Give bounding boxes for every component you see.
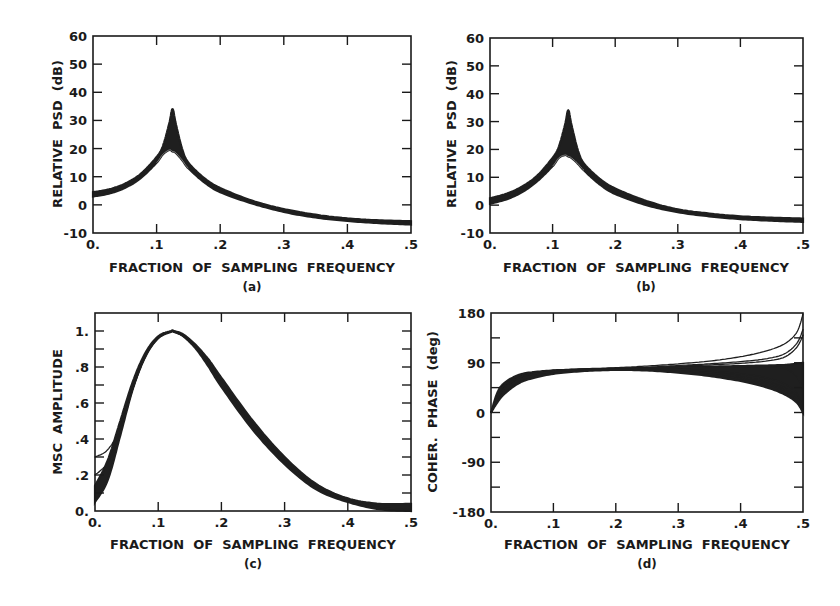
x-tick-label: .1: [546, 237, 560, 252]
x-tick-label: .2: [608, 237, 622, 252]
x-tick-label: .1: [150, 237, 164, 252]
panel-d-y-axis-label: COHER. PHASE (deg): [425, 331, 440, 493]
y-tick-label: 0.: [75, 504, 89, 519]
panel-b-caption: (b): [636, 280, 656, 294]
panel-d-phase-chart: 0..1.2.3.4.5-180-90090180 COHER. PHASE (…: [425, 306, 810, 571]
x-tick-label: .3: [277, 237, 291, 252]
y-tick-label: -10: [64, 226, 88, 241]
panel-a-plot-area: 0..1.2.3.4.5-100102030405060: [64, 29, 418, 252]
panel-c-curves: [95, 330, 411, 511]
y-tick-label: .8: [75, 360, 89, 375]
panel-b-x-axis-label: FRACTION OF SAMPLING FREQUENCY: [503, 260, 789, 275]
x-tick-label: .4: [734, 516, 748, 531]
x-tick-label: .2: [609, 516, 623, 531]
panel-c-caption: (c): [244, 557, 262, 571]
x-tick-label: .1: [546, 516, 560, 531]
y-tick-label: 1.: [75, 324, 89, 339]
y-tick-label: 30: [466, 115, 484, 130]
x-tick-label: 0.: [88, 515, 102, 530]
panel-b-y-axis-label: RELATIVE PSD (dB): [444, 60, 459, 208]
panel-d-x-axis-label: FRACTION OF SAMPLING FREQUENCY: [504, 537, 790, 552]
y-tick-label: 60: [466, 31, 484, 46]
panel-a-caption: (a): [242, 280, 261, 294]
y-tick-label: -10: [461, 226, 485, 241]
y-tick-label: -90: [462, 455, 486, 470]
x-tick-label: .3: [671, 516, 685, 531]
x-tick-label: .3: [278, 515, 292, 530]
panel-a-curves: [93, 109, 411, 224]
x-tick-label: .5: [796, 237, 810, 252]
x-tick-label: .2: [213, 237, 227, 252]
y-tick-label: 0: [476, 406, 485, 421]
panel-d-plot-area: 0..1.2.3.4.5-180-90090180: [452, 306, 810, 531]
panel-d-upper-fan-1-line: [491, 314, 803, 412]
x-tick-label: .4: [733, 237, 747, 252]
x-tick-label: .4: [341, 515, 355, 530]
panel-b-ensemble-band: [490, 110, 803, 221]
x-tick-label: .2: [214, 515, 228, 530]
panel-c-axes-frame: [95, 313, 411, 511]
panel-b-plot-area: 0..1.2.3.4.5-100102030405060: [461, 31, 810, 252]
x-tick-label: 0.: [483, 237, 497, 252]
y-tick-label: 40: [466, 87, 484, 102]
x-tick-label: .5: [404, 237, 418, 252]
x-tick-label: .4: [340, 237, 354, 252]
x-tick-label: .5: [796, 516, 810, 531]
panel-a-ensemble-band: [93, 109, 411, 224]
panel-d-caption: (d): [637, 557, 657, 571]
y-tick-label: -180: [452, 505, 485, 520]
panel-c-msc-chart: 0..1.2.3.4.50..2.4.6.81. MSC AMPLITUDE F…: [50, 313, 418, 571]
panel-c-plot-area: 0..1.2.3.4.50..2.4.6.81.: [75, 313, 418, 530]
x-tick-label: 0.: [86, 237, 100, 252]
panel-a-psd-chart: 0..1.2.3.4.5-100102030405060 RELATIVE PS…: [50, 29, 418, 294]
panel-a-y-axis-label: RELATIVE PSD (dB): [50, 60, 65, 208]
y-tick-label: .2: [75, 468, 89, 483]
x-tick-label: .5: [404, 515, 418, 530]
y-tick-label: 10: [69, 170, 87, 185]
y-tick-label: 20: [69, 142, 87, 157]
x-tick-label: .3: [671, 237, 685, 252]
y-tick-label: 30: [69, 113, 87, 128]
y-tick-label: 0: [78, 198, 87, 213]
panel-b-curves: [490, 110, 803, 221]
y-tick-label: 20: [466, 142, 484, 157]
panel-a-x-axis-label: FRACTION OF SAMPLING FREQUENCY: [109, 260, 395, 275]
panel-c-ensemble-band: [95, 330, 411, 511]
y-tick-label: 10: [466, 170, 484, 185]
x-tick-label: .1: [151, 515, 165, 530]
y-tick-label: .6: [75, 396, 89, 411]
panel-d-curves: [491, 314, 803, 412]
y-tick-label: .4: [75, 432, 89, 447]
y-tick-label: 0: [475, 198, 484, 213]
y-tick-label: 60: [69, 29, 87, 44]
panel-c-x-axis-label: FRACTION OF SAMPLING FREQUENCY: [110, 537, 396, 552]
figure-container: 0..1.2.3.4.5-100102030405060 RELATIVE PS…: [0, 0, 840, 606]
y-tick-label: 40: [69, 85, 87, 100]
figure-svg: 0..1.2.3.4.5-100102030405060 RELATIVE PS…: [0, 0, 840, 606]
panel-b-psd-chart: 0..1.2.3.4.5-100102030405060 RELATIVE PS…: [444, 31, 810, 294]
y-tick-label: 180: [458, 306, 485, 321]
x-tick-label: 0.: [484, 516, 498, 531]
y-tick-label: 50: [466, 59, 484, 74]
y-tick-label: 50: [69, 57, 87, 72]
y-tick-label: 90: [467, 356, 485, 371]
panel-c-y-axis-label: MSC AMPLITUDE: [50, 349, 65, 475]
panel-d-axes-frame: [491, 313, 803, 512]
